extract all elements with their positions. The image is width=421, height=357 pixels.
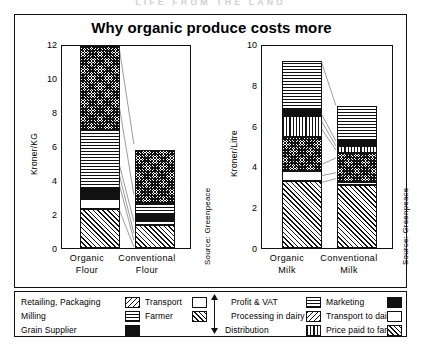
legend-swatch-price-paid-to-farmer	[306, 325, 321, 336]
segment-price-paid-to-farmer[interactable]	[337, 185, 377, 248]
y-tick-flour-6: 6	[35, 143, 57, 152]
segment-transport-to-dairy[interactable]	[337, 182, 377, 185]
legend-swatch-farmer	[125, 311, 140, 322]
bar-organic-milk[interactable]	[282, 61, 322, 248]
legend-item-black-swatch-2[interactable]	[125, 323, 140, 337]
y-tick-flour-4: 4	[35, 177, 57, 186]
y-axis-title-flour: Kroner/KG	[29, 133, 39, 175]
y-tick-milk-2: 2	[235, 204, 257, 213]
legend-swatch-transport	[125, 297, 140, 308]
page-header-cutoff: LIFE FROM THE LAND	[0, 0, 421, 9]
plot-area-flour	[61, 45, 191, 249]
segment-grain-supplier[interactable]	[80, 209, 120, 248]
x-label-organic-flour: Organic Flour	[61, 253, 113, 276]
segment-processing-in-dairy[interactable]	[337, 146, 377, 153]
legend-item-farmer[interactable]: Farmer	[125, 309, 173, 323]
legend-swatch-marketing	[306, 297, 321, 308]
y-tick-flour-8: 8	[35, 109, 57, 118]
panel-milk: Kroner/Litre 0 2 4 6 8 10	[213, 15, 408, 289]
legend-swatch-processing-in-dairy	[192, 311, 207, 322]
legend-swatch-transport-to-dairy	[306, 311, 321, 322]
bar-conventional-flour[interactable]	[135, 150, 175, 248]
panel-flour: Kroner/KG 0 2 4 6 8 10 12	[15, 15, 215, 289]
y-tick-milk-8: 8	[235, 82, 257, 91]
x-label-conventional-milk: Conventional Milk	[309, 253, 389, 276]
legend-item-processing-in-dairy[interactable]: Processing in dairy	[192, 309, 305, 323]
legend-label: Distribution	[225, 325, 269, 335]
segment-distribution[interactable]	[337, 141, 377, 146]
segment-transport[interactable]	[80, 189, 120, 199]
segment-profit-vat[interactable]	[135, 221, 175, 225]
legend-item-transport-to-dairy[interactable]: Transport to dairy	[306, 309, 394, 323]
legend-label: Milling	[21, 311, 46, 321]
legend-label: Transport	[145, 297, 182, 307]
segment-retailing-packaging[interactable]	[80, 46, 120, 130]
x-label-conventional-flour: Conventional Flour	[109, 253, 185, 276]
legend-row-3: Grain Supplier Distribution Price paid t…	[15, 323, 408, 337]
segment-marketing[interactable]	[282, 61, 322, 109]
legend-swatch-white	[387, 311, 402, 322]
legend-item-retailing-packaging[interactable]: Retailing, Packaging	[21, 295, 101, 309]
source-note-flour: Source: Greenpeace	[203, 188, 212, 265]
legend-label: Farmer	[145, 311, 173, 321]
segment-transport[interactable]	[135, 215, 175, 221]
bar-organic-flour[interactable]	[80, 46, 120, 248]
segment-profit-vat[interactable]	[80, 199, 120, 209]
legend-item-grain-supplier[interactable]: Grain Supplier	[21, 323, 77, 337]
legend-item-milling[interactable]: Milling	[21, 309, 46, 323]
segment-retailing-packaging[interactable]	[282, 137, 322, 171]
legend-label: Processing in dairy	[231, 311, 305, 321]
legend-item-black-swatch-1[interactable]	[387, 295, 402, 309]
y-tick-milk-10: 10	[229, 41, 257, 50]
legend: Retailing, Packaging Transport Profit & …	[14, 291, 407, 337]
legend-item-white-swatch[interactable]	[387, 309, 402, 323]
segment-milling[interactable]	[135, 203, 175, 216]
legend-item-distribution[interactable]: Distribution	[225, 323, 269, 337]
legend-item-profit-vat[interactable]: Profit & VAT	[192, 295, 278, 309]
segment-grain-supplier[interactable]	[135, 225, 175, 248]
legend-row-2: Milling Farmer Processing in dairy Trans…	[15, 309, 408, 323]
segment-retailing-packaging[interactable]	[337, 153, 377, 182]
chart-frame: Why organic produce costs more Kroner/KG…	[14, 14, 407, 288]
segment-transport-to-dairy[interactable]	[282, 171, 322, 181]
y-tick-flour-2: 2	[35, 211, 57, 220]
chart-page: LIFE FROM THE LAND Why organic produce c…	[0, 0, 421, 357]
y-tick-flour-10: 10	[29, 75, 57, 84]
y-tick-milk-0: 0	[235, 245, 257, 254]
legend-item-marketing[interactable]: Marketing	[306, 295, 364, 309]
legend-swatch-diagonal	[387, 325, 402, 336]
legend-label: Transport to dairy	[326, 311, 394, 321]
legend-row-1: Retailing, Packaging Transport Profit & …	[15, 295, 408, 309]
y-tick-milk-6: 6	[235, 123, 257, 132]
y-tick-flour-0: 0	[35, 245, 57, 254]
segment-retailing-packaging[interactable]	[135, 150, 175, 202]
legend-label: Retailing, Packaging	[21, 297, 101, 307]
source-note-milk: Source: Greenpeace	[401, 188, 410, 265]
y-tick-milk-4: 4	[235, 163, 257, 172]
plot-area-milk	[261, 45, 393, 249]
bar-conventional-milk[interactable]	[337, 106, 377, 248]
segment-marketing[interactable]	[337, 106, 377, 141]
legend-swatch-profit-vat	[192, 297, 207, 308]
x-label-organic-milk: Organic Milk	[261, 253, 313, 276]
legend-label: Marketing	[326, 297, 364, 307]
legend-item-transport[interactable]: Transport	[125, 295, 182, 309]
segment-milling[interactable]	[80, 130, 120, 189]
segment-distribution[interactable]	[282, 110, 322, 116]
y-tick-flour-12: 12	[29, 41, 57, 50]
segment-processing-in-dairy[interactable]	[282, 116, 322, 137]
legend-item-diag-swatch[interactable]	[387, 323, 402, 337]
segment-price-paid-to-farmer[interactable]	[282, 181, 322, 248]
legend-label: Grain Supplier	[21, 325, 77, 335]
legend-swatch-black	[125, 325, 140, 336]
legend-label: Profit & VAT	[231, 297, 278, 307]
legend-swatch-black	[387, 297, 402, 308]
